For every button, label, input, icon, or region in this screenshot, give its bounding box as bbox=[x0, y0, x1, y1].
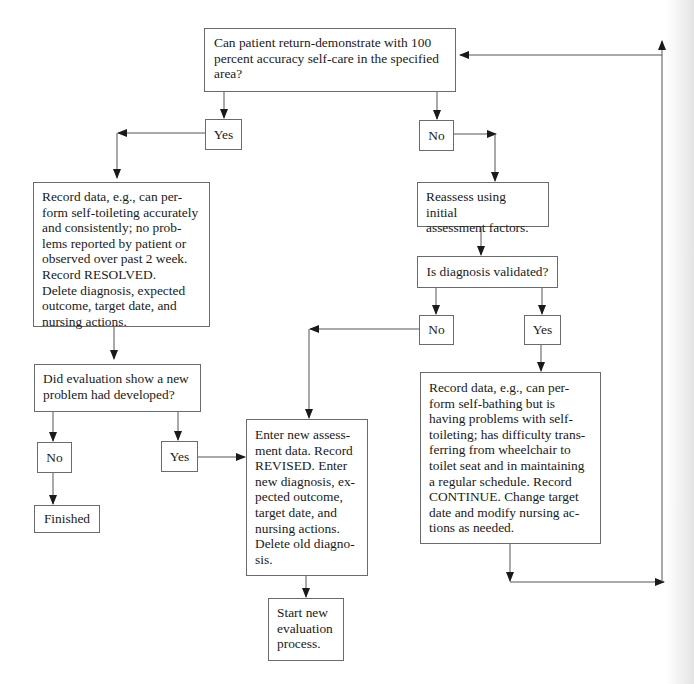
revised-line: sis. bbox=[255, 552, 359, 568]
revised-box: Enter new assess- ment data. Record REVI… bbox=[246, 419, 368, 576]
start-question-line: Can patient return-demonstrate with 100 bbox=[214, 35, 446, 51]
no-label: No bbox=[46, 450, 62, 466]
yes-label: Yes bbox=[533, 322, 552, 338]
continue-line: a regular schedule. Record bbox=[429, 474, 592, 490]
start-new-line: Start new bbox=[277, 605, 335, 621]
continue-line: form self-bathing but is bbox=[429, 396, 592, 412]
resolved-line: observed over past 2 week. bbox=[42, 251, 201, 267]
continue-box: Record data, e.g., can per- form self-ba… bbox=[420, 372, 601, 544]
resolved-line: outcome, target date, and bbox=[42, 298, 201, 314]
revised-line: Delete old diagno- bbox=[255, 536, 359, 552]
revised-line: Enter new assess- bbox=[255, 427, 359, 443]
finished-box: Finished bbox=[34, 505, 100, 533]
start-question-line: percent accuracy self-care in the specif… bbox=[214, 51, 446, 67]
resolved-box: Record data, e.g., can per- form self-to… bbox=[33, 182, 210, 327]
start-new-box: Start new evaluation process. bbox=[268, 598, 344, 661]
finished-label: Finished bbox=[44, 511, 90, 527]
no-box-1: No bbox=[419, 120, 454, 151]
resolved-line: nursing actions. bbox=[42, 314, 201, 330]
start-question-box: Can patient return-demonstrate with 100 … bbox=[204, 28, 456, 92]
resolved-line: and consistently; no prob- bbox=[42, 220, 201, 236]
no-label: No bbox=[428, 128, 444, 144]
continue-line: CONTINUE. Change target bbox=[429, 489, 592, 505]
no-box-3: No bbox=[419, 315, 454, 345]
start-question-line: area? bbox=[214, 66, 446, 82]
new-problem-question-box: Did evaluation show a new problem had de… bbox=[34, 364, 201, 412]
revised-line: nursing actions. bbox=[255, 521, 359, 537]
start-new-line: evaluation bbox=[277, 621, 335, 637]
no-label: No bbox=[428, 322, 444, 338]
diagnosis-question-box: Is diagnosis validated? bbox=[417, 256, 558, 288]
continue-line: date and modify nursing ac- bbox=[429, 505, 592, 521]
reassess-line: Reassess using initial bbox=[426, 189, 540, 220]
no-box-2: No bbox=[37, 442, 72, 473]
diagnosis-question-label: Is diagnosis validated? bbox=[427, 264, 549, 280]
continue-line: toileting; has difficulty trans- bbox=[429, 427, 592, 443]
revised-line: target date, and bbox=[255, 505, 359, 521]
start-new-line: process. bbox=[277, 636, 335, 652]
revised-line: pected outcome, bbox=[255, 489, 359, 505]
continue-line: having problems with self- bbox=[429, 411, 592, 427]
reassess-box: Reassess using initial assessment factor… bbox=[417, 182, 549, 227]
resolved-line: Delete diagnosis, expected bbox=[42, 283, 201, 299]
continue-line: toilet seat and in maintaining bbox=[429, 458, 592, 474]
continue-line: ferring from wheelchair to bbox=[429, 442, 592, 458]
revised-line: ment data. Record bbox=[255, 443, 359, 459]
connector-lines bbox=[0, 0, 694, 684]
new-problem-line: Did evaluation show a new bbox=[43, 371, 192, 387]
continue-line: tions as needed. bbox=[429, 520, 592, 536]
yes-label: Yes bbox=[214, 127, 233, 143]
resolved-line: lems reported by patient or bbox=[42, 236, 201, 252]
revised-line: REVISED. Enter bbox=[255, 458, 359, 474]
yes-label: Yes bbox=[170, 449, 189, 465]
yes-box-2: Yes bbox=[161, 441, 198, 472]
resolved-line: Record data, e.g., can per- bbox=[42, 189, 201, 205]
yes-box-3: Yes bbox=[524, 315, 561, 345]
continue-line: Record data, e.g., can per- bbox=[429, 380, 592, 396]
reassess-line: assessment factors. bbox=[426, 220, 540, 236]
yes-box-1: Yes bbox=[205, 119, 242, 150]
new-problem-line: problem had developed? bbox=[43, 387, 192, 403]
revised-line: new diagnosis, ex- bbox=[255, 474, 359, 490]
resolved-line: Record RESOLVED. bbox=[42, 267, 201, 283]
resolved-line: form self-toileting accurately bbox=[42, 205, 201, 221]
